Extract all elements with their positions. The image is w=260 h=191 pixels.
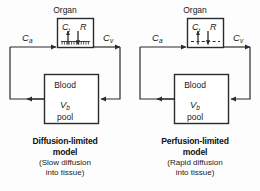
arterial-concentration-label: Ca [152, 33, 163, 45]
caption-sub-line2: into tissue) [0, 168, 130, 178]
caption-title-line1: Perfusion-limited [130, 136, 260, 147]
tissue-concentration-subscript: t [69, 27, 71, 33]
caption-sub-line1: (Rapid diffusion [130, 158, 260, 168]
resistance-label: R [210, 23, 217, 32]
venous-concentration-subscript: v [110, 37, 113, 44]
caption-subtitle: (Slow diffusion into tissue) [0, 158, 130, 178]
caption-subtitle: (Rapid diffusion into tissue) [130, 158, 260, 178]
blood-volume-label: Vb [0, 100, 130, 112]
panel-diffusion-limited: Organ Ct R Ca Cv Blood Vb pool Diffusion… [0, 0, 130, 191]
diagram-diffusion-limited: Organ Ct R Ca Cv Blood Vb pool [0, 0, 130, 132]
tissue-concentration-label: Ct [62, 23, 70, 33]
tissue-concentration-label: Ct [192, 23, 200, 33]
venous-return-path [101, 47, 120, 99]
blood-volume-subscript: b [66, 104, 70, 111]
caption-perfusion-limited: Perfusion-limited model (Rapid diffusion… [130, 136, 260, 178]
arterial-concentration-subscript: a [159, 37, 163, 44]
venous-concentration-symbol: C [103, 32, 110, 43]
venous-return-path [231, 47, 250, 99]
tissue-concentration-subscript: t [199, 27, 201, 33]
resistance-label: R [80, 23, 87, 32]
caption-title-line1: Diffusion-limited [0, 136, 130, 147]
caption-title-line2: model [0, 147, 130, 158]
arterial-concentration-label: Ca [22, 33, 33, 45]
pool-label: pool [0, 113, 130, 122]
panel-perfusion-limited: Organ Ct R Ca Cv Blood Vb pool Perfusion… [130, 0, 260, 191]
venous-concentration-label: Cv [103, 33, 113, 45]
arterial-concentration-symbol: C [152, 32, 159, 43]
blood-volume-subscript: b [196, 104, 200, 111]
caption-sub-line2: into tissue) [130, 168, 260, 178]
venous-concentration-symbol: C [233, 32, 240, 43]
pool-label: pool [130, 113, 260, 122]
arterial-concentration-symbol: C [22, 32, 29, 43]
arterial-supply-path [10, 47, 45, 99]
organ-label: Organ [0, 6, 130, 15]
blood-label: Blood [130, 81, 260, 90]
caption-diffusion-limited: Diffusion-limited model (Slow diffusion … [0, 136, 130, 178]
blood-label: Blood [0, 81, 130, 90]
venous-concentration-label: Cv [233, 33, 243, 45]
blood-volume-label: Vb [130, 100, 260, 112]
caption-title: Perfusion-limited model [130, 136, 260, 157]
caption-sub-line1: (Slow diffusion [0, 158, 130, 168]
figure-container: Organ Ct R Ca Cv Blood Vb pool Diffusion… [0, 0, 260, 191]
organ-label: Organ [130, 6, 260, 15]
caption-title: Diffusion-limited model [0, 136, 130, 157]
arterial-supply-path [140, 47, 175, 99]
venous-concentration-subscript: v [240, 37, 243, 44]
caption-title-line2: model [130, 147, 260, 158]
diagram-perfusion-limited: Organ Ct R Ca Cv Blood Vb pool [130, 0, 260, 132]
arterial-concentration-subscript: a [29, 37, 33, 44]
